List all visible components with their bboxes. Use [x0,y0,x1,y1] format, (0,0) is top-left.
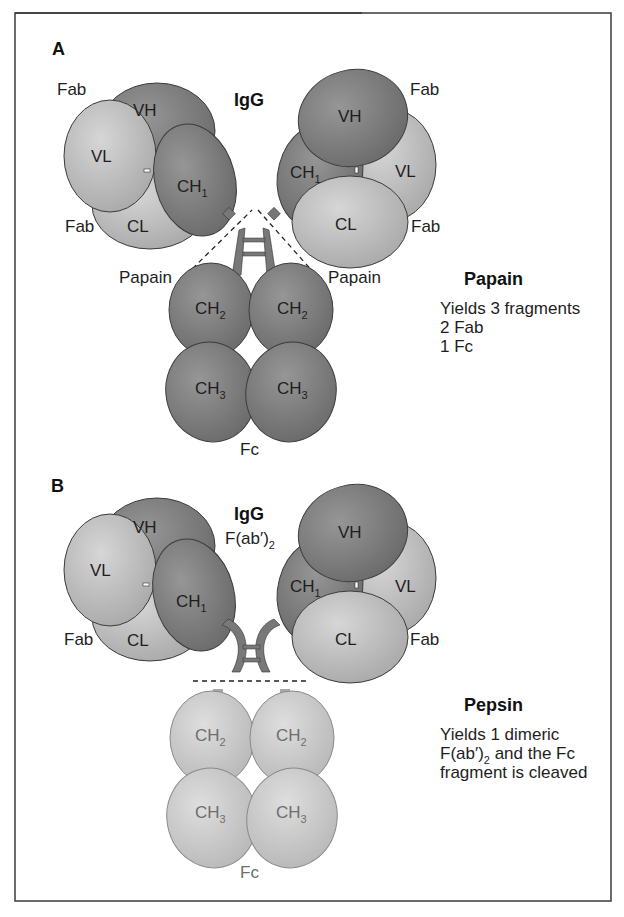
disulfide-bond [243,658,260,662]
right-fab: VH VL CH1 CL Fab [265,472,439,683]
right-fab: VH VL CH1 CL Fab Fab [265,57,440,268]
panel-b-letter: B [51,476,64,496]
left-fab: VH VL CH1 CL Fab [64,498,247,661]
hinge-region [222,619,280,672]
enzyme-name: Pepsin [464,695,523,715]
antibody-cleavage-figure: A IgG VH VL CH1 CL Fab Fab VH VL CH1 CL [0,0,624,917]
disulfide-bond [243,252,265,256]
vh-label: VH [133,518,157,537]
fab-label: Fab [64,630,93,649]
vh-label: VH [338,523,362,542]
papain-cleavage-label: Papain [119,268,172,287]
disulfide-bond [243,238,265,242]
fc-label: Fc [240,440,259,459]
panel-a-letter: A [52,39,65,59]
cl-label: CL [335,630,357,649]
vh-label: VH [338,107,362,126]
panel-b: B IgG F(ab′)2 VH VL CH1 CL Fab VH VL CH1 [51,472,587,882]
disulfide-bond [243,645,260,649]
enzyme-description-line: Yields 1 dimeric [440,725,560,744]
enzyme-description-line: 1 Fc [440,337,474,356]
vl-label: VL [91,147,112,166]
panel-a-title: IgG [234,90,264,110]
panel-b-title: IgG [234,504,264,524]
fab-label: Fab [411,217,440,236]
cl-label: CL [335,215,357,234]
papain-description: Papain Yields 3 fragments 2 Fab 1 Fc [440,269,580,356]
panel-b-subtitle: F(ab′)2 [225,529,275,551]
vl-label: VL [395,577,416,596]
fab-label: Fab [410,80,439,99]
panel-a: A IgG VH VL CH1 CL Fab Fab VH VL CH1 CL [52,39,580,459]
cl-label: CL [127,631,149,650]
fc-label: Fc [240,863,259,882]
enzyme-name: Papain [464,269,523,289]
fc-region: CH2 CH2 CH3 CH3 Fc [157,263,346,459]
enzyme-description-line: fragment is cleaved [440,763,587,782]
fab-label: Fab [57,80,86,99]
papain-cleavage-label: Papain [328,268,381,287]
enzyme-description-line: Yields 3 fragments [440,299,580,318]
pepsin-description: Pepsin Yields 1 dimeric F(ab′)2 and the … [440,695,587,782]
hinge-region [223,207,281,276]
vh-label: VH [133,101,157,120]
vl-label: VL [90,561,111,580]
left-fab: VH VL CH1 CL Fab Fab [57,80,248,249]
fab-label: Fab [410,630,439,649]
cl-label: CL [127,217,149,236]
enzyme-description-line: 2 Fab [440,318,483,337]
cleaved-fc-region: CH2 CH2 CH3 CH3 Fc [158,689,347,882]
fab-label: Fab [65,217,94,236]
vl-label: VL [395,162,416,181]
